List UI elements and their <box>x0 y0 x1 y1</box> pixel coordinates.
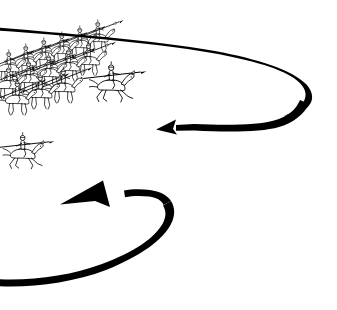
cavalry-formation <box>0 20 146 169</box>
cavalry-maneuver-illustration <box>0 0 337 310</box>
lone-lancer-lower <box>0 132 54 169</box>
upper-arrow <box>0 28 312 135</box>
lower-arrow <box>0 181 174 287</box>
figure-root: Cavalry charge maneuver diagram Line-dra… <box>0 0 337 310</box>
